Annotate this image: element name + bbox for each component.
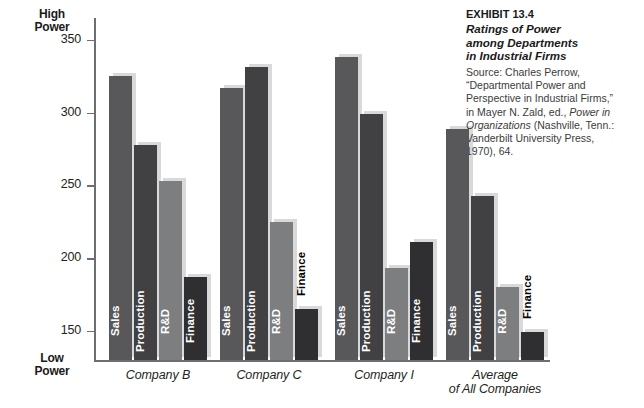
bar-sales: Sales: [335, 57, 358, 360]
bar-label: Production: [360, 288, 383, 354]
source-line-3: Perspective in Industrial Firms,”: [466, 92, 613, 104]
y-tick-mark: [87, 258, 95, 260]
exhibit-title-line3: in Industrial Firms: [466, 49, 567, 62]
bar-sales: Sales: [220, 88, 243, 360]
bar-production: Production: [471, 196, 494, 360]
bar-label: Finance: [521, 266, 544, 328]
bar-label: Production: [471, 288, 494, 354]
y-tick-label: 300: [21, 105, 81, 119]
y-axis-low-line2: Power: [22, 365, 82, 378]
source-line-5a: Organizations: [466, 119, 531, 131]
exhibit-number: EXHIBIT 13.4: [466, 8, 640, 21]
bar-label: Sales: [335, 288, 358, 354]
bar-sales: Sales: [446, 129, 469, 360]
bar-finance: Finance: [410, 242, 433, 360]
group-caption: Averageof All Companies: [428, 368, 562, 396]
exhibit-title-line2: among Departments: [466, 36, 578, 49]
exhibit-source: Source: Charles Perrow, “Departmental Po…: [466, 66, 640, 158]
bar-label: Finance: [295, 243, 318, 305]
y-tick-mark: [87, 113, 95, 115]
bar-body: [521, 332, 544, 360]
exhibit-title: Ratings of Power among Departments in In…: [466, 22, 640, 63]
bar-label: R&D: [270, 288, 293, 354]
group-caption-line1: Company C: [202, 368, 336, 382]
bar-label: Sales: [446, 288, 469, 354]
source-line-5b: (Nashville, Tenn.:: [531, 119, 614, 131]
bar-label: Finance: [410, 288, 433, 354]
group-caption-line1: Average: [428, 368, 562, 382]
source-line-2: “Departmental Power and: [466, 79, 586, 91]
bar-finance: Finance: [184, 277, 207, 360]
bar-label: R&D: [159, 288, 182, 354]
source-line-6: Vanderbilt University Press,: [466, 132, 594, 144]
source-line-4a: in Mayer N. Zald, ed.,: [466, 106, 569, 118]
y-tick-mark: [87, 185, 95, 187]
bar-label: R&D: [385, 288, 408, 354]
bar-label: R&D: [496, 289, 519, 354]
bar-sales: Sales: [109, 76, 132, 360]
bar-finance: Finance: [521, 332, 544, 360]
bar-label: Production: [245, 288, 268, 354]
bar-label: Finance: [184, 288, 207, 354]
exhibit-title-line1: Ratings of Power: [466, 22, 561, 35]
exhibit-figure: High Power Low Power 150200250300350 Sal…: [0, 0, 644, 408]
exhibit-caption-panel: EXHIBIT 13.4 Ratings of Power among Depa…: [466, 8, 640, 158]
y-tick-label: 350: [21, 32, 81, 46]
source-line-4b: Power in: [569, 106, 610, 118]
bar-label: Production: [134, 288, 157, 354]
bar-production: Production: [134, 145, 157, 360]
bar-label: Sales: [220, 288, 243, 354]
group-caption-line2: of All Companies: [428, 382, 562, 396]
bar-label: Sales: [109, 288, 132, 354]
y-tick-mark: [87, 331, 95, 333]
y-axis-low-label: Low Power: [22, 352, 82, 378]
bar-finance: Finance: [295, 309, 318, 360]
bar-production: Production: [360, 114, 383, 360]
bar-body: [295, 309, 318, 360]
bar-rnd: R&D: [496, 287, 519, 360]
y-axis-high-label: High Power: [22, 8, 82, 34]
y-tick-label: 150: [21, 323, 81, 337]
source-line-1: Source: Charles Perrow,: [466, 66, 580, 78]
bar-production: Production: [245, 67, 268, 360]
bar-rnd: R&D: [270, 222, 293, 360]
bar-rnd: R&D: [159, 181, 182, 360]
group-caption: Company C: [202, 368, 336, 382]
source-line-7: 1970), 64.: [466, 145, 513, 157]
bar-rnd: R&D: [385, 268, 408, 360]
y-tick-label: 250: [21, 177, 81, 191]
y-tick-mark: [87, 40, 95, 42]
y-tick-label: 200: [21, 250, 81, 264]
x-axis-line: [94, 360, 550, 362]
